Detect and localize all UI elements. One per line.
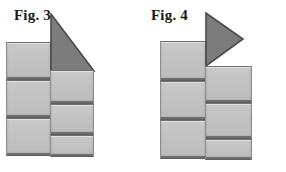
- figure-3-stage: [0, 0, 143, 172]
- block: [205, 66, 252, 103]
- block: [205, 139, 252, 160]
- block: [6, 42, 51, 80]
- block: [6, 118, 51, 156]
- block: [205, 103, 252, 139]
- figure-3: Fig. 3: [0, 0, 143, 172]
- roof-triangle-icon: [50, 13, 96, 72]
- block: [50, 135, 94, 157]
- figure-sheet: Fig. 3 Fig. 4: [0, 0, 286, 172]
- block: [50, 104, 94, 135]
- block: [50, 70, 94, 104]
- block: [6, 80, 51, 118]
- block: [160, 120, 206, 159]
- figure-4: Fig. 4: [143, 0, 286, 172]
- block: [160, 81, 206, 120]
- block: [160, 41, 206, 81]
- flag-triangle-icon: [205, 12, 245, 68]
- figure-4-stage: [143, 0, 286, 172]
